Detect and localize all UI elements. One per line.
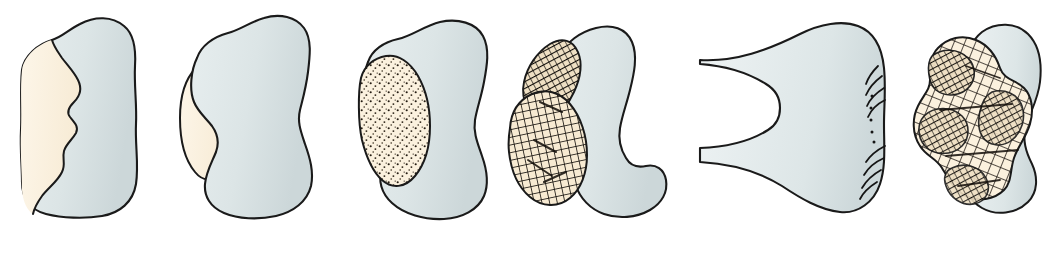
stage-2-bone-outline: [191, 16, 312, 219]
stage-labels-row: I II III IV V: [0, 226, 1063, 274]
stage-5-hatch-block-upper-left: [929, 50, 975, 95]
stage-5-hatch-block-mid: [919, 109, 968, 154]
stage-1-drawing: [21, 18, 137, 218]
figure-root: I II III IV V: [0, 0, 1063, 274]
